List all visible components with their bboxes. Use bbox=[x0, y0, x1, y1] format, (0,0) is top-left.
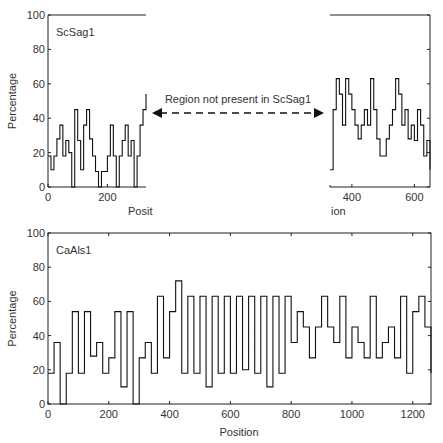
y-tick-label: 40 bbox=[33, 112, 45, 124]
axes-frame bbox=[48, 15, 146, 187]
arrow-right-icon bbox=[314, 108, 324, 118]
data-line-scsag1-right bbox=[330, 79, 430, 170]
annotation-text: Region not present in ScSag1 bbox=[165, 93, 311, 105]
y-tick-label: 80 bbox=[33, 43, 45, 55]
x-tick-label: 800 bbox=[282, 408, 300, 420]
figure: 0204060801000200ScSag1400600PercentagePo… bbox=[0, 0, 443, 443]
panel-title: CaAls1 bbox=[56, 244, 91, 256]
y-tick-label: 40 bbox=[33, 330, 45, 342]
x-axis-label-part: ion bbox=[331, 205, 346, 217]
bottom-panel: 020406080100020040060080010001200CaAls1P… bbox=[6, 227, 431, 438]
arrow-left-icon bbox=[152, 108, 162, 118]
top-left-panel: 0204060801000200ScSag1 bbox=[27, 9, 146, 203]
y-axis-label: Percentage bbox=[6, 290, 18, 346]
x-tick-label: 400 bbox=[160, 408, 178, 420]
y-tick-label: 80 bbox=[33, 261, 45, 273]
x-tick-label: 600 bbox=[405, 191, 423, 203]
x-tick-label: 0 bbox=[45, 408, 51, 420]
x-tick-label: 600 bbox=[221, 408, 239, 420]
x-tick-label: 1000 bbox=[340, 408, 364, 420]
x-axis-label-part: Posit bbox=[128, 205, 152, 217]
chart-canvas: 0204060801000200ScSag1400600PercentagePo… bbox=[0, 0, 443, 443]
x-tick-label: 200 bbox=[100, 408, 118, 420]
top-right-panel: 400600 bbox=[330, 15, 430, 203]
data-line-caals1 bbox=[48, 281, 431, 404]
y-tick-label: 60 bbox=[33, 78, 45, 90]
data-line-scsag1-left bbox=[48, 94, 146, 187]
y-tick-label: 20 bbox=[33, 364, 45, 376]
y-tick-label: 100 bbox=[27, 227, 45, 239]
x-axis-label: Position bbox=[219, 426, 258, 438]
y-tick-label: 100 bbox=[27, 9, 45, 21]
axes-frame bbox=[330, 15, 430, 187]
y-axis-label: Percentage bbox=[6, 73, 18, 129]
x-tick-label: 200 bbox=[98, 191, 116, 203]
annotation: Region not present in ScSag1 bbox=[152, 93, 324, 118]
axes-frame bbox=[48, 233, 431, 404]
y-tick-label: 60 bbox=[33, 295, 45, 307]
panel-title: ScSag1 bbox=[56, 26, 95, 38]
y-tick-label: 20 bbox=[33, 147, 45, 159]
x-tick-label: 400 bbox=[343, 191, 361, 203]
x-tick-label: 0 bbox=[45, 191, 51, 203]
x-tick-label: 1200 bbox=[401, 408, 425, 420]
